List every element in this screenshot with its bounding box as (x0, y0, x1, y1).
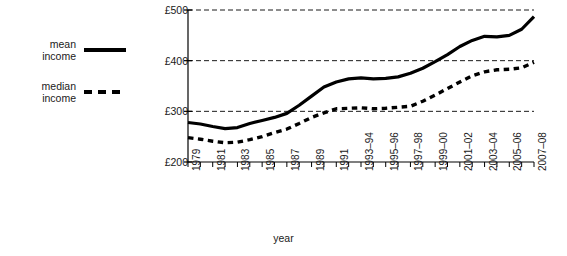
x-tick-label-199596: 1995–96 (390, 132, 400, 171)
x-tick-label-199798: 1997–98 (414, 132, 424, 171)
x-axis-tick-labels: 19791981198319851987198919911993–941995–… (0, 0, 567, 256)
income-chart-figure: mean income median income real income (2… (0, 0, 567, 256)
x-tick-label-200304: 2003–04 (489, 132, 499, 171)
x-tick-label-1985: 1985 (266, 149, 276, 171)
x-tick-label-1989: 1989 (316, 149, 326, 171)
plot-area-wrapper: real income (2007–08 prices) £200£300£40… (0, 0, 567, 256)
x-tick-label-1979: 1979 (192, 149, 202, 171)
x-tick-label-1991: 1991 (340, 149, 350, 171)
x-axis-title: year (0, 232, 567, 244)
x-tick-label-200102: 2001–02 (464, 132, 474, 171)
x-tick-label-1983: 1983 (241, 149, 251, 171)
x-tick-label-199394: 1993–94 (365, 132, 375, 171)
x-tick-label-200708: 2007–08 (538, 132, 548, 171)
x-tick-label-199900: 1999–00 (439, 132, 449, 171)
x-tick-label-1981: 1981 (217, 149, 227, 171)
x-tick-label-1987: 1987 (291, 149, 301, 171)
x-tick-label-200506: 2005–06 (513, 132, 523, 171)
